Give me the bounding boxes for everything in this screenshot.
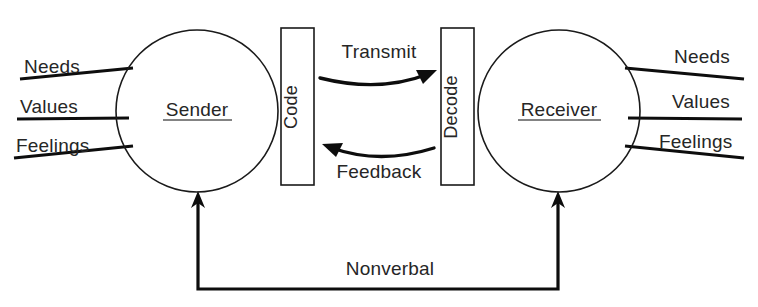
feedback-arc-line (332, 148, 434, 157)
receiver-label: Receiver (521, 99, 598, 120)
feedback-label: Feedback (336, 161, 421, 182)
sender-attr-values: Values (20, 96, 78, 117)
transmit-arrow (320, 70, 437, 85)
receiver-needs-line (625, 68, 744, 79)
code-label: Code (281, 85, 301, 129)
feedback-arrow (322, 143, 434, 157)
sender-attr-needs: Needs (24, 56, 80, 77)
sender-attr-feelings: Feelings (16, 135, 89, 156)
nonverbal-label: Nonverbal (346, 258, 434, 279)
sender-values-line (17, 118, 129, 119)
receiver-attr-needs: Needs (674, 46, 730, 67)
diagram-canvas: Sender Receiver Code Decode Transmit Fee… (0, 0, 758, 307)
transmit-arc-line (320, 74, 428, 85)
communication-model-diagram: Sender Receiver Code Decode Transmit Fee… (0, 0, 758, 307)
receiver-values-line (628, 118, 742, 119)
decode-label: Decode (441, 75, 461, 138)
receiver-attr-values: Values (672, 91, 730, 112)
receiver-attr-feelings: Feelings (659, 131, 732, 152)
transmit-label: Transmit (342, 41, 417, 62)
sender-label: Sender (166, 99, 229, 120)
